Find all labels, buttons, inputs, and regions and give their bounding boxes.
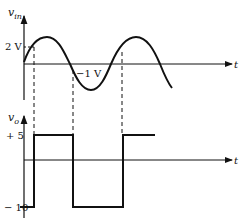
vo-square-wave — [20, 135, 155, 207]
vin-2v-label: 2 V — [5, 41, 23, 52]
vin-axis-label: vin — [8, 6, 22, 21]
vo-plus5-label: + 5 — [6, 130, 24, 141]
comparator-waveform-diagram: vin t 2 V −1 V vo t + 5 − 10 — [0, 0, 243, 221]
vin-time-label: t — [234, 59, 239, 70]
vo-time-label: t — [234, 155, 239, 166]
vo-axis-label: vo — [8, 111, 19, 126]
vin-neg1v-label: −1 V — [76, 68, 102, 79]
output-plot: vo t + 5 − 10 — [4, 111, 239, 218]
